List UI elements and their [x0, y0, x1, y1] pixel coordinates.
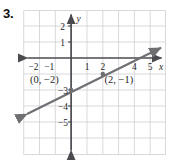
y-tick-label-neg4: −4 [58, 102, 68, 112]
graph-figure: 3. [0, 0, 170, 164]
point-annotation-two: (2, −1) [105, 74, 134, 86]
point-annotation-origin: (0, −2) [30, 74, 59, 86]
coordinate-plane-svg: −2 −1 1 2 4 5 x y 2 1 −3 −4 −5 (0, −2) (… [0, 0, 170, 164]
y-axis-label: y [75, 14, 81, 24]
x-tick-label-neg1: −1 [44, 62, 54, 72]
y-tick-label-2: 2 [60, 22, 65, 32]
x-tick-label-5: 5 [148, 62, 153, 72]
data-point-0-neg2 [69, 88, 74, 93]
x-tick-label-1: 1 [85, 62, 90, 72]
y-tick-label-1: 1 [60, 38, 65, 48]
x-tick-label-neg2: −2 [28, 62, 38, 72]
y-tick-label-neg3: −3 [58, 86, 68, 96]
x-axis-label: x [158, 62, 164, 72]
coordinate-plane: −2 −1 1 2 4 5 x y 2 1 −3 −4 −5 (0, −2) (… [0, 0, 170, 164]
x-tick-label-4: 4 [132, 62, 137, 72]
y-tick-label-neg5: −5 [58, 118, 68, 128]
x-tick-label-2: 2 [100, 62, 105, 72]
